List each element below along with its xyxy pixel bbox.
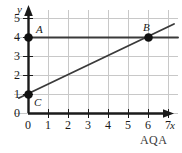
point-a-marker	[24, 33, 33, 42]
x-tick-label-1: 1	[45, 119, 51, 131]
x-tick-label-2: 2	[65, 119, 71, 131]
y-tick-label-0: 0	[14, 107, 20, 119]
point-label-a: A	[36, 24, 43, 35]
x-axis	[28, 109, 174, 118]
point-c-marker	[24, 90, 33, 99]
aqa-watermark: AQA	[140, 134, 167, 146]
x-tick-label-0: 0	[25, 119, 31, 131]
x-tick-label-6: 6	[145, 119, 151, 131]
x-tick-label-4: 4	[105, 119, 111, 131]
y-tick-label-4: 4	[14, 31, 20, 43]
y-tick-label-1: 1	[14, 88, 20, 100]
y-tick-label-2: 2	[14, 69, 20, 81]
point-label-c: C	[34, 97, 41, 108]
x-axis-label: x	[170, 120, 175, 131]
point-label-b: B	[143, 22, 150, 33]
graph-figure: 5 4 3 2 1 0 0 1 2 3 4 5 6 7 y x A B C AQ…	[0, 0, 182, 153]
point-b-marker	[144, 33, 153, 42]
y-axis-label: y	[17, 4, 22, 15]
y-tick-label-3: 3	[14, 50, 20, 62]
x-tick-label-3: 3	[85, 119, 91, 131]
x-tick-label-5: 5	[125, 119, 131, 131]
